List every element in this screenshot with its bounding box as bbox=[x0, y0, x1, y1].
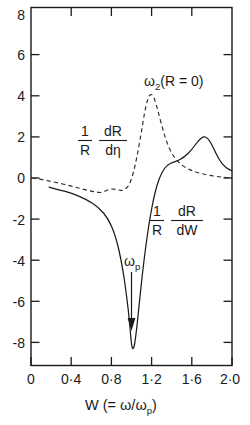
x-tick-label-0: 0 bbox=[27, 371, 35, 387]
y-tick-label-0: 0 bbox=[17, 170, 25, 186]
x-axis-title: W (= ω/ωp) bbox=[85, 397, 157, 416]
dw-denominator-left: R bbox=[152, 222, 162, 238]
x-tick-label-16: 1·6 bbox=[182, 371, 202, 387]
x-tick-label-04: 0·4 bbox=[61, 371, 81, 387]
y-tick-label-6: 6 bbox=[17, 47, 25, 63]
deta-numerator-left: 1 bbox=[81, 123, 89, 139]
omega2-rest: (R = 0) bbox=[160, 73, 203, 89]
y-tick-label-4: 4 bbox=[17, 88, 25, 104]
y-tick-label-8: 8 bbox=[17, 7, 25, 23]
y-axis-ticks-right bbox=[224, 55, 233, 343]
dw-numerator-left: 1 bbox=[153, 203, 161, 219]
omega2-base: ω bbox=[144, 73, 155, 89]
chart-svg: 8 6 4 2 0 -2 -4 -6 -8 0 0·4 0·8 1·2 1·6 … bbox=[0, 0, 250, 425]
y-tick-label-neg6: -6 bbox=[13, 294, 26, 310]
x-tick-label-20: 2·0 bbox=[220, 371, 240, 387]
y-tick-label-neg2: -2 bbox=[13, 212, 26, 228]
deta-denominator-left: R bbox=[80, 142, 90, 158]
omega-p-base: ω bbox=[124, 253, 135, 269]
y-tick-labels: 8 6 4 2 0 -2 -4 -6 -8 bbox=[13, 7, 26, 351]
annotation-omega2-text: ω2(R = 0) bbox=[144, 73, 203, 92]
x-axis-title-text: W (= ω/ωp) bbox=[85, 397, 157, 416]
figure-container: 8 6 4 2 0 -2 -4 -6 -8 0 0·4 0·8 1·2 1·6 … bbox=[0, 0, 250, 425]
x-axis-title-main: W (= ω/ω bbox=[85, 397, 147, 413]
omega-p-sub: p bbox=[135, 261, 140, 272]
y-tick-label-neg8: -8 bbox=[13, 335, 26, 351]
x-axis-ticks-top bbox=[71, 8, 192, 17]
x-tick-label-08: 0·8 bbox=[101, 371, 121, 387]
x-tick-labels: 0 0·4 0·8 1·2 1·6 2·0 bbox=[27, 371, 240, 387]
dw-denominator-right: dW bbox=[177, 222, 199, 238]
y-tick-label-2: 2 bbox=[17, 129, 25, 145]
omega-p-arrow-head bbox=[128, 318, 136, 331]
series-dr-deta-curve bbox=[32, 95, 232, 193]
dw-numerator-right: dR bbox=[178, 203, 196, 219]
omega-p-text: ωp bbox=[124, 253, 140, 272]
deta-denominator-right: dη bbox=[105, 142, 121, 158]
deta-numerator-right: dR bbox=[104, 123, 122, 139]
annotation-one-over-r-dr-deta: 1 R dR dη bbox=[78, 123, 127, 158]
y-axis-ticks-left bbox=[31, 55, 40, 343]
annotation-omega2-r-zero: ω2(R = 0) bbox=[144, 73, 203, 92]
series-dr-dw-curve bbox=[49, 137, 232, 349]
annotation-one-over-r-dr-dw: 1 R dR dW bbox=[150, 203, 203, 238]
x-axis-ticks-bottom bbox=[31, 357, 232, 366]
x-tick-label-12: 1·2 bbox=[141, 371, 161, 387]
y-tick-label-neg4: -4 bbox=[13, 253, 26, 269]
